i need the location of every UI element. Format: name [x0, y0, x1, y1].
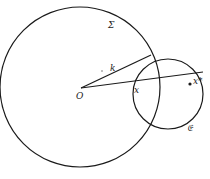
point-dot — [188, 82, 191, 85]
label-x: x — [134, 85, 139, 95]
label-x-star: x* — [193, 76, 203, 86]
small-mark — [101, 70, 102, 71]
label-sigma: Σ — [107, 20, 115, 30]
label-k: k — [110, 63, 115, 73]
label-small-circle: 𝔈 — [187, 123, 194, 133]
diagram-canvas: Σ k O x x* 𝔈 — [0, 0, 210, 179]
label-origin: O — [76, 91, 84, 101]
small-circle — [133, 59, 203, 129]
